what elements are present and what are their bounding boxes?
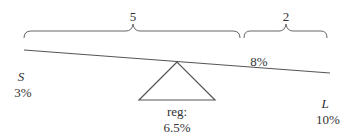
right-brace — [244, 24, 327, 38]
right-end-value: 10% — [316, 113, 340, 126]
fulcrum-triangle — [139, 62, 215, 100]
diagram-canvas — [0, 0, 350, 140]
fulcrum-label: reg: — [167, 105, 187, 118]
fulcrum-value: 6.5% — [163, 121, 190, 134]
right-end-name: L — [321, 97, 328, 110]
left-brace-label: 5 — [130, 10, 137, 23]
left-end-name: S — [18, 70, 25, 83]
right-brace-label: 2 — [283, 10, 290, 23]
left-brace — [24, 24, 240, 38]
marker-value: 8% — [250, 55, 267, 68]
left-end-value: 3% — [14, 86, 31, 99]
